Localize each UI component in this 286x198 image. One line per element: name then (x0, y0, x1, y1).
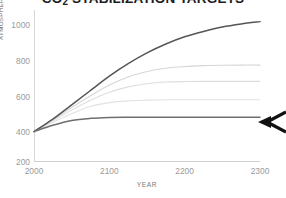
x-axis-label: YEAR (34, 181, 260, 188)
curve-650-ppm-target (34, 81, 260, 131)
x-tick-2000: 2000 (25, 166, 44, 176)
y-tick-400: 400 (16, 127, 30, 137)
y-tick-600: 600 (16, 92, 30, 102)
curve-550-ppm-target (34, 100, 260, 132)
curve-group (34, 10, 260, 162)
y-axis-label: ATMOSPHERIC CO2 (PPM) (0, 0, 5, 40)
x-tick-2100: 2100 (100, 166, 119, 176)
y-axis-label-prefix: ATMOSPHERIC CO (0, 0, 4, 40)
x-tick-2300: 2300 (251, 166, 270, 176)
plot-area: 1000 800 600 400 200 2000 2100 2200 2300 (34, 10, 260, 162)
chart-title-rest: STABILIZATION TARGETS (68, 0, 244, 6)
pointer-arrow-icon (258, 104, 286, 140)
y-tick-1000: 1000 (11, 20, 30, 30)
chart-title: CO2 STABILIZATION TARGETS (0, 0, 286, 7)
y-tick-800: 800 (16, 56, 30, 66)
x-tick-2200: 2200 (175, 166, 194, 176)
curve-450-ppm-target (34, 117, 260, 131)
chart-figure: CO2 STABILIZATION TARGETS ATMOSPHERIC CO… (0, 0, 286, 198)
chart-title-prefix: CO (42, 0, 63, 6)
